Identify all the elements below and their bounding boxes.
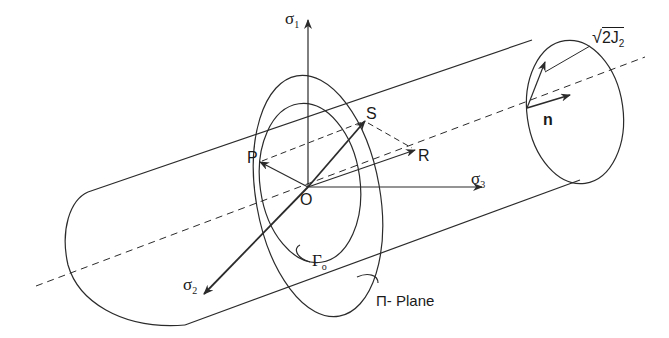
- normal-vector: [527, 95, 570, 108]
- radius-label: √2J2: [592, 28, 624, 49]
- cylinder-top-line: [88, 40, 532, 192]
- point-p-label: P: [247, 150, 258, 166]
- gamma0-leader: [296, 245, 310, 262]
- hydrostatic-axis: [36, 57, 645, 286]
- normal-label: n: [543, 112, 553, 128]
- origin-label: O: [300, 192, 312, 208]
- cylinder-left-cap: [65, 192, 185, 326]
- dashed-sr: [368, 123, 412, 148]
- gamma0-label: Γo: [312, 252, 327, 272]
- radius-vector: [527, 62, 545, 108]
- cylinder-right-cap: [517, 34, 632, 190]
- diagram-canvas: σ1 σ3 σ2 O S P R n √2J2 Γo Π- Plane: [0, 0, 669, 338]
- radius-leader: [545, 46, 590, 72]
- point-s-label: S: [366, 106, 377, 122]
- sigma3-label: σ3: [471, 170, 485, 190]
- vector-op: [260, 162, 308, 187]
- diagram-drawing: [0, 0, 669, 338]
- sigma2-label: σ2: [183, 276, 197, 296]
- sigma1-label: σ1: [285, 10, 299, 30]
- pi-plane-label: Π- Plane: [376, 293, 434, 308]
- point-r-label: R: [418, 148, 430, 164]
